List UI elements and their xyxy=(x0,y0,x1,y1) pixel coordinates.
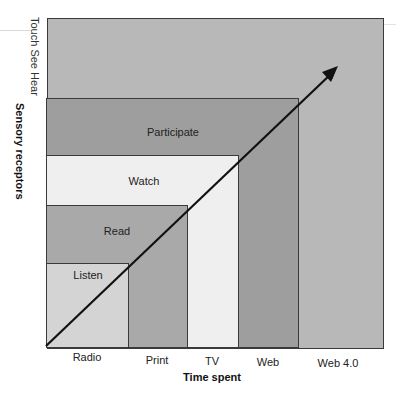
x-tick-print: Print xyxy=(146,354,169,366)
x-tick-web-4-0: Web 4.0 xyxy=(318,357,359,369)
x-tick-tv: TV xyxy=(205,355,219,367)
decorative-line xyxy=(383,24,396,25)
decorative-line xyxy=(0,30,30,31)
label-participate: Participate xyxy=(147,126,199,138)
label-listen: Listen xyxy=(73,269,102,281)
x-axis-title: Time spent xyxy=(183,371,241,383)
label-read: Read xyxy=(104,225,130,237)
sensory-media-diagram: Participate Watch Read Listen Radio Prin… xyxy=(0,0,396,397)
label-watch: Watch xyxy=(129,175,160,187)
x-tick-radio: Radio xyxy=(73,351,102,363)
y-axis-scale-label: Touch See Hear xyxy=(29,17,41,96)
y-axis-title: Sensory receptors xyxy=(14,103,26,200)
x-tick-web: Web xyxy=(257,356,279,368)
